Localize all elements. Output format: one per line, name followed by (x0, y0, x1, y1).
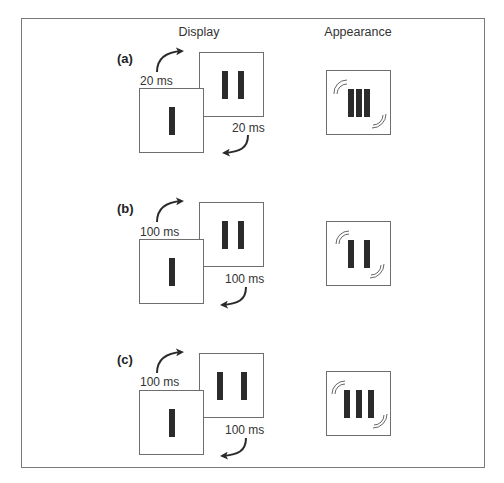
bar (169, 107, 175, 135)
bar (241, 372, 247, 400)
display-frame-2-b (199, 202, 264, 267)
timing-bottom-b: 100 ms (225, 272, 264, 286)
bar (364, 240, 370, 268)
display-frame-1-c (139, 390, 204, 455)
bar (169, 258, 175, 286)
display-frame-1-a (139, 88, 204, 153)
bar (364, 89, 370, 117)
bar (217, 372, 223, 400)
appearance-frame-b (326, 221, 391, 286)
bar (238, 221, 244, 249)
appearance-frame-c (326, 371, 391, 436)
bar (238, 71, 244, 99)
appearance-frame-a (326, 70, 391, 135)
row-label-a: (a) (117, 51, 133, 66)
appearance-column-header: Appearance (324, 25, 391, 39)
bar (222, 71, 228, 99)
display-column-header: Display (179, 25, 220, 39)
bar (356, 390, 362, 418)
display-frame-1-b (139, 239, 204, 304)
bar (169, 409, 175, 437)
bar (356, 89, 362, 117)
timing-top-b: 100 ms (140, 225, 179, 239)
bar (222, 221, 228, 249)
timing-bottom-a: 20 ms (232, 121, 265, 135)
bar (348, 240, 354, 268)
timing-top-c: 100 ms (140, 375, 179, 389)
bar (348, 89, 354, 117)
row-label-b: (b) (117, 201, 134, 216)
bar (344, 390, 350, 418)
timing-top-a: 20 ms (140, 74, 173, 88)
timing-bottom-c: 100 ms (225, 423, 264, 437)
display-frame-2-a (199, 52, 264, 117)
row-label-c: (c) (117, 352, 133, 367)
display-frame-2-c (199, 353, 264, 418)
bar (368, 390, 374, 418)
